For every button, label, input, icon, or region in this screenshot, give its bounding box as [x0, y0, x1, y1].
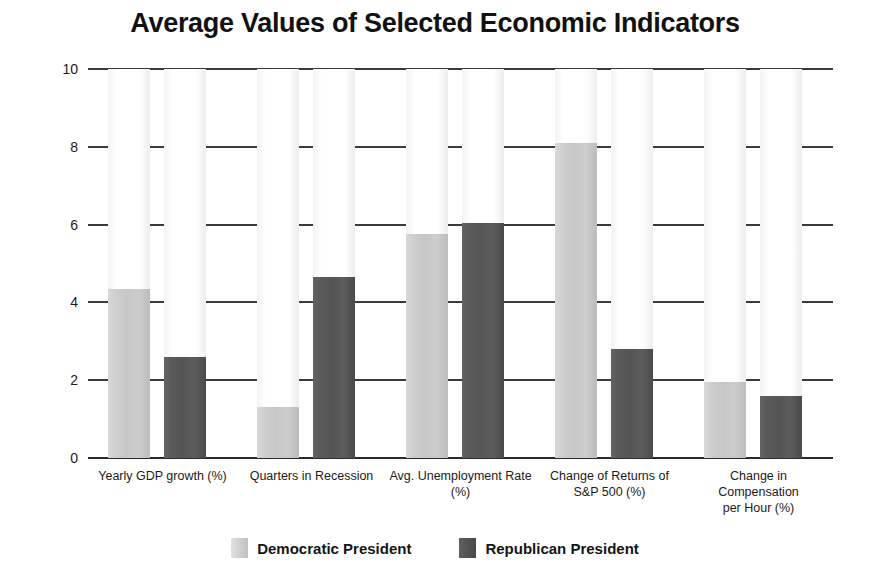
- y-tick-label-2: 2: [38, 372, 78, 388]
- category-label-line: per Hour (%): [684, 500, 833, 516]
- category-label-line: Change of Returns of: [535, 468, 684, 484]
- legend-item[interactable]: Democratic President: [231, 538, 411, 558]
- bar-democratic[interactable]: [257, 407, 299, 458]
- legend-swatch-icon: [459, 538, 476, 558]
- category-label-line: Yearly GDP growth (%): [88, 468, 237, 484]
- category-label: Yearly GDP growth (%): [88, 468, 237, 484]
- plot-area: [88, 69, 833, 458]
- category-label: Avg. Unemployment Rate(%): [386, 468, 535, 500]
- y-tick-label-6: 6: [38, 217, 78, 233]
- bar-democratic[interactable]: [406, 234, 448, 458]
- y-axis: 0246810: [30, 69, 78, 458]
- bar-republican[interactable]: [611, 349, 653, 458]
- bar-democratic[interactable]: [704, 382, 746, 458]
- bar-republican[interactable]: [462, 223, 504, 458]
- category-label-line: Quarters in Recession: [237, 468, 386, 484]
- legend-item[interactable]: Republican President: [459, 538, 638, 558]
- category-label-line: (%): [386, 484, 535, 500]
- x-axis-category-labels: Yearly GDP growth (%)Quarters in Recessi…: [88, 468, 833, 530]
- bar-group: [88, 69, 237, 458]
- y-tick-label-4: 4: [38, 294, 78, 310]
- legend-label: Republican President: [485, 540, 638, 557]
- category-label-line: Change in: [684, 468, 833, 484]
- category-label: Change of Returns ofS&P 500 (%): [535, 468, 684, 500]
- bar-democratic[interactable]: [108, 289, 150, 458]
- bar-democratic[interactable]: [555, 143, 597, 458]
- bar-republican[interactable]: [164, 357, 206, 458]
- category-label: Quarters in Recession: [237, 468, 386, 484]
- economic-indicators-chart: Average Values of Selected Economic Indi…: [0, 0, 870, 586]
- legend-label: Democratic President: [257, 540, 411, 557]
- chart-legend: Democratic PresidentRepublican President: [0, 538, 870, 558]
- bar-group: [237, 69, 386, 458]
- category-label-line: Compensation: [684, 484, 833, 500]
- bar-group: [535, 69, 684, 458]
- y-tick-label-10: 10: [38, 61, 78, 77]
- y-tick-label-0: 0: [38, 450, 78, 466]
- bar-republican[interactable]: [760, 396, 802, 458]
- y-tick-label-8: 8: [38, 139, 78, 155]
- category-label: Change inCompensationper Hour (%): [684, 468, 833, 516]
- bar-group: [386, 69, 535, 458]
- bar-group: [684, 69, 833, 458]
- chart-title: Average Values of Selected Economic Indi…: [0, 8, 870, 39]
- category-label-line: Avg. Unemployment Rate: [386, 468, 535, 484]
- bar-republican[interactable]: [313, 277, 355, 458]
- legend-swatch-icon: [231, 538, 248, 558]
- category-label-line: S&P 500 (%): [535, 484, 684, 500]
- bar-column-background: [257, 69, 299, 458]
